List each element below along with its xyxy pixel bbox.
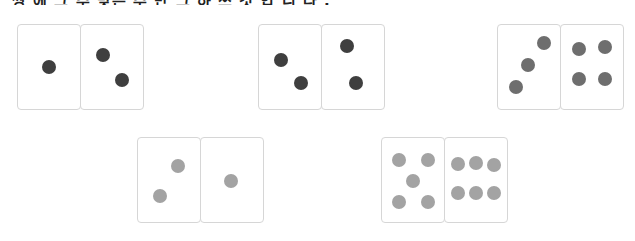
pip-icon [421, 195, 435, 209]
pip-icon [537, 36, 551, 50]
pip-icon [469, 156, 483, 170]
pip-icon [521, 58, 535, 72]
pip-icon [115, 73, 129, 87]
domino-5-left-half [381, 137, 445, 223]
domino-5-right-half [444, 137, 508, 223]
domino-1-left-half [17, 24, 81, 110]
domino-2 [258, 24, 385, 110]
pip-icon [421, 153, 435, 167]
pip-icon [572, 42, 586, 56]
domino-1-right-half [80, 24, 144, 110]
domino-4-right-half [200, 137, 264, 223]
pip-icon [349, 76, 363, 90]
domino-2-left-half [258, 24, 322, 110]
pip-icon [96, 48, 110, 62]
pip-icon [487, 158, 501, 172]
pip-icon [274, 53, 288, 67]
domino-4-left-half [137, 137, 201, 223]
pip-icon [406, 174, 420, 188]
pip-icon [451, 157, 465, 171]
pip-icon [572, 72, 586, 86]
pip-icon [42, 60, 56, 74]
pip-icon [224, 174, 238, 188]
domino-3 [497, 24, 624, 110]
domino-1 [17, 24, 144, 110]
pip-icon [451, 186, 465, 200]
pip-icon [487, 186, 501, 200]
pip-icon [171, 159, 185, 173]
domino-2-right-half [321, 24, 385, 110]
domino-3-right-half [560, 24, 624, 110]
domino-5 [381, 137, 508, 223]
pip-icon [509, 80, 523, 94]
pip-icon [392, 153, 406, 167]
clipped-instruction-text: 쌍 에 그 수 맞는 수 만 그 하 쓰 것 입 니 다 . [12, 0, 632, 5]
pip-icon [340, 39, 354, 53]
pip-icon [392, 195, 406, 209]
pip-icon [469, 186, 483, 200]
pip-icon [294, 76, 308, 90]
domino-4 [137, 137, 264, 223]
domino-3-left-half [497, 24, 561, 110]
pip-icon [598, 40, 612, 54]
pip-icon [598, 72, 612, 86]
pip-icon [153, 189, 167, 203]
